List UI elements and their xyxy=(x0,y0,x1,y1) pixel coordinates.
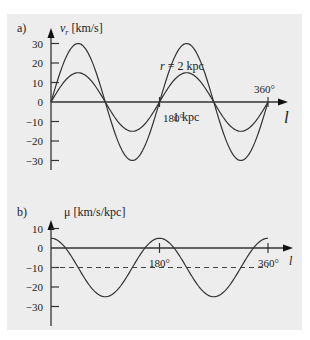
x-axis-label: l xyxy=(289,254,293,268)
chart-b: b) μ [km/s/kpc] 100−10−20−30l180°360° xyxy=(17,205,293,326)
y-axis-arrow-icon xyxy=(48,28,55,38)
y-axis-label-b: μ [km/s/kpc] xyxy=(64,205,125,219)
x-axis-label: l xyxy=(284,108,289,127)
y-tick-label: −10 xyxy=(26,116,44,128)
series-label-2kpc: r = 2 kpc xyxy=(160,59,204,73)
series-label-1kpc: 1 kpc xyxy=(173,110,199,124)
y-tick-label: 30 xyxy=(32,38,44,50)
y-tick-label: −20 xyxy=(26,135,44,147)
panel-label-b: b) xyxy=(17,205,27,219)
axes-a: 3020100−10−20−30l180°360° xyxy=(26,28,289,170)
axes-b: 100−10−20−30l180°360° xyxy=(26,220,293,326)
panel-label-a: a) xyxy=(17,21,26,35)
y-axis-label-a: vr [km/s] xyxy=(60,21,103,37)
figure: a) vr [km/s] 3020100−10−20−30l180°360° r… xyxy=(0,0,310,340)
y-tick-label: 0 xyxy=(38,242,44,254)
y-tick-label: −30 xyxy=(26,155,44,167)
x-axis-arrow-icon xyxy=(278,99,288,106)
chart-a: a) vr [km/s] 3020100−10−20−30l180°360° r… xyxy=(17,21,289,170)
y-tick-label: 10 xyxy=(32,77,44,89)
y-tick-label: 10 xyxy=(32,223,44,235)
y-tick-label: −20 xyxy=(26,281,44,293)
y-tick-label: −10 xyxy=(26,262,44,274)
x-tick-label: 360° xyxy=(254,83,275,95)
y-tick-label: 0 xyxy=(38,96,44,108)
x-axis-arrow-icon xyxy=(283,245,293,252)
y-tick-label: 20 xyxy=(32,57,44,69)
y-tick-label: −30 xyxy=(26,301,44,313)
